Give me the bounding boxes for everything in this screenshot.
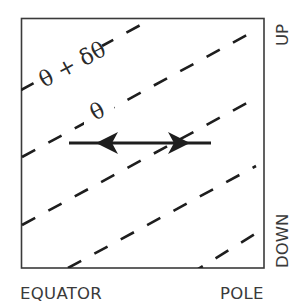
dashed-line-4 [68, 166, 256, 268]
diagram-svg: θ + δθ θ EQUATOR POLE UP DOWN [0, 0, 306, 308]
label-equator: EQUATOR [20, 284, 102, 303]
diagram-canvas: θ + δθ θ EQUATOR POLE UP DOWN [0, 0, 306, 308]
label-down: DOWN [273, 214, 292, 268]
dashed-line-3 [22, 97, 258, 225]
label-up: UP [273, 24, 292, 46]
label-pole: POLE [220, 284, 264, 303]
